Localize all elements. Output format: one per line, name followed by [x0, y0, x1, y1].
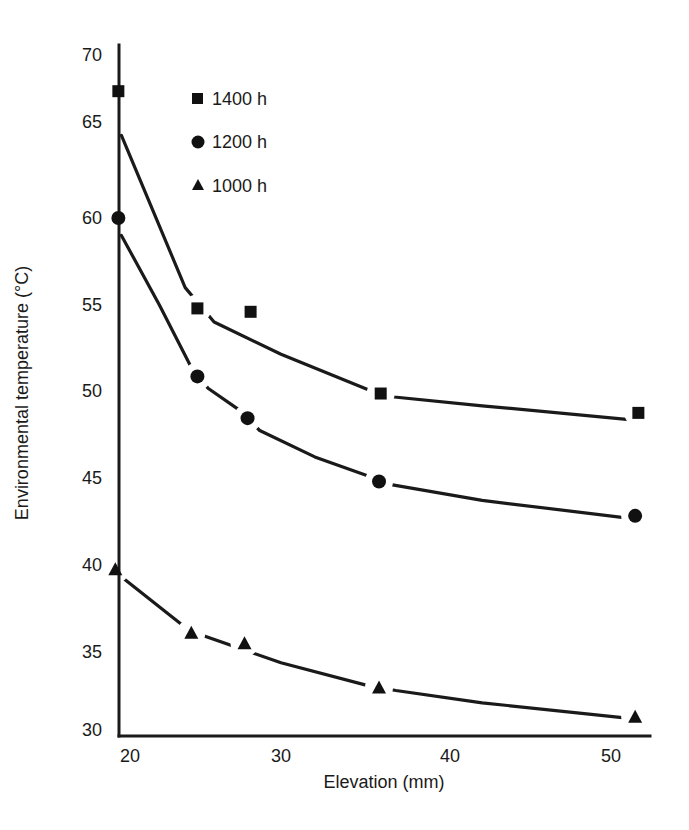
- legend: 1400 h 1200 h 1000 h: [192, 89, 268, 196]
- y-tick-label: 45: [82, 468, 102, 488]
- y-axis-title: Environmental temperature (°C): [12, 266, 32, 520]
- circle-marker-icon: [372, 474, 386, 488]
- y-tick-label: 65: [82, 112, 102, 132]
- x-axis-title: Elevation (mm): [323, 772, 444, 792]
- x-tick-label: 40: [440, 746, 460, 766]
- y-tick-labels: 70 65 60 55 50 45 40 35 30: [82, 45, 102, 740]
- fit-curves: [101, 77, 652, 731]
- y-tick-label: 60: [82, 208, 102, 228]
- circle-marker-icon: [192, 136, 205, 149]
- circle-marker-icon: [190, 369, 204, 383]
- x-tick-label: 30: [271, 746, 291, 766]
- y-tick-label: 55: [82, 295, 102, 315]
- circle-marker-icon: [241, 411, 255, 425]
- x-tick-labels: 20 30 40 50: [120, 746, 621, 766]
- line-chart: 70 65 60 55 50 45 40 35 30 20 30 40 50 E…: [0, 0, 689, 830]
- circle-marker-icon: [111, 211, 125, 225]
- legend-label-1200h: 1200 h: [212, 132, 267, 152]
- square-marker-icon: [192, 93, 203, 104]
- square-marker-icon: [191, 302, 203, 314]
- y-tick-label: 30: [82, 720, 102, 740]
- square-marker-icon: [112, 85, 124, 97]
- x-tick-label: 20: [120, 746, 140, 766]
- y-tick-label: 70: [82, 45, 102, 65]
- x-tick-label: 50: [601, 746, 621, 766]
- square-marker-icon: [375, 388, 387, 400]
- circle-marker-icon: [628, 509, 642, 523]
- legend-label-1000h: 1000 h: [212, 176, 267, 196]
- y-tick-label: 50: [82, 381, 102, 401]
- square-marker-icon: [632, 407, 644, 419]
- square-marker-icon: [245, 306, 257, 318]
- triangle-marker-icon: [192, 179, 204, 190]
- y-tick-label: 35: [82, 642, 102, 662]
- legend-label-1400h: 1400 h: [212, 89, 267, 109]
- y-tick-label: 40: [82, 555, 102, 575]
